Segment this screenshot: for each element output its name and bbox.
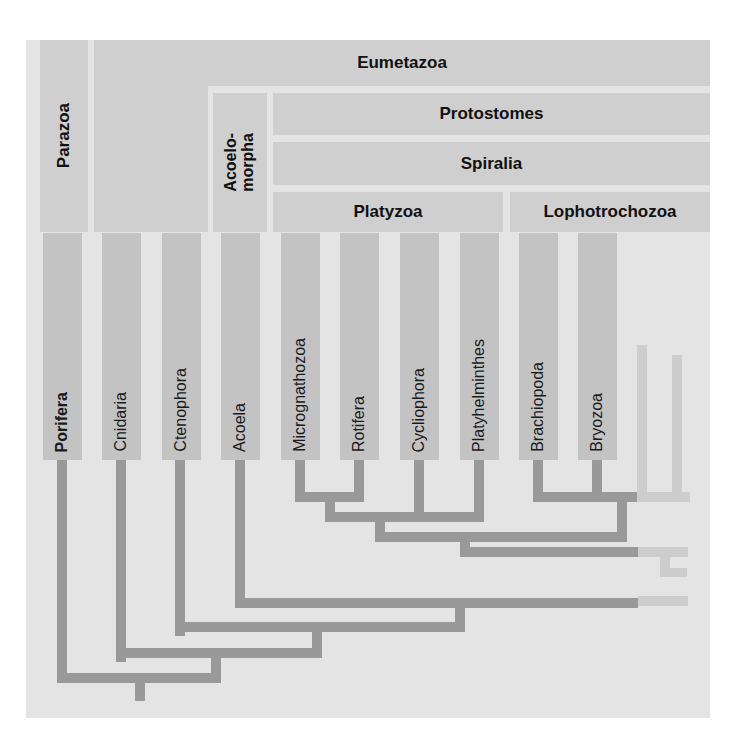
faded-branch-lines	[637, 345, 690, 606]
tree-branches	[0, 0, 737, 743]
branch-lines	[57, 460, 638, 701]
phylogeny-diagram: Parazoa Eumetazoa Acoelo- morpha Protost…	[0, 0, 737, 743]
